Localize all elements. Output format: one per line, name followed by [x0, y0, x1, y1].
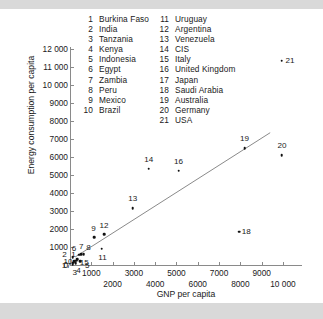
data-point-label-21: 21	[285, 57, 294, 65]
legend-item-a-1: 1Burkina Faso	[78, 14, 149, 24]
data-point-label-9: 9	[91, 225, 96, 233]
y-tick-4000	[71, 193, 74, 194]
legend-item-country: Uruguay	[175, 14, 207, 24]
data-point-20	[281, 154, 284, 157]
y-tick-6000	[71, 157, 74, 158]
x-tick-7000	[219, 262, 220, 265]
x-tick-9000	[262, 262, 263, 265]
y-tick-7000	[71, 139, 74, 140]
y-tick-8000	[71, 121, 74, 122]
x-tick-3000	[134, 262, 135, 265]
x-tick-4000	[155, 262, 156, 265]
legend-item-country: India	[99, 24, 118, 34]
x-tick-10000	[283, 262, 284, 265]
x-tick-2000	[113, 262, 114, 265]
legend-item-country: Argentina	[175, 24, 211, 34]
x-tick-label-7000: 7000	[210, 269, 228, 277]
legend-item-b-12: 12Argentina	[154, 24, 235, 34]
x-tick-1000	[91, 262, 92, 265]
data-point-16	[177, 169, 180, 172]
legend-item-number: 2	[78, 24, 93, 34]
y-tick-label-0: 0	[8, 261, 68, 269]
legend-item-country: Tanzania	[99, 34, 133, 44]
legend-item-number: 3	[78, 34, 93, 44]
legend-item-country: Venezuela	[175, 34, 215, 44]
y-tick-label-6000: 6000	[8, 153, 68, 161]
x-tick-label-3000: 3000	[125, 269, 143, 277]
y-axis-tick-labels: 010002000300040005000600070008000900010 …	[6, 0, 68, 319]
x-axis-line	[70, 265, 302, 266]
data-point-label-13: 13	[128, 195, 137, 203]
data-point-label-7: 7	[79, 243, 84, 251]
y-tick-label-12000: 12 000	[8, 45, 68, 53]
x-tick-label-8000: 8000	[231, 280, 249, 288]
y-axis-title: Energy consumption per capita	[26, 40, 36, 190]
y-tick-label-5000: 5000	[8, 171, 68, 179]
y-tick-label-11000: 11 000	[8, 63, 68, 71]
legend-item-number: 11	[154, 14, 169, 24]
y-tick-3000	[71, 211, 74, 212]
scatter-plot-figure: 1Burkina Faso2India3Tanzania4Kenya5Indon…	[0, 0, 323, 319]
y-tick-label-3000: 3000	[8, 207, 68, 215]
y-tick-5000	[71, 175, 74, 176]
legend-item-b-13: 13Venezuela	[154, 34, 235, 44]
y-tick-9000	[71, 103, 74, 104]
legend-item-b-11: 11Uruguay	[154, 14, 235, 24]
x-tick-label-6000: 6000	[189, 280, 207, 288]
y-tick-label-2000: 2000	[8, 225, 68, 233]
data-point-label-15: 15	[80, 258, 89, 266]
x-tick-6000	[198, 262, 199, 265]
data-point-label-20: 20	[277, 142, 286, 150]
data-point-18	[238, 230, 241, 233]
x-tick-label-9000: 9000	[252, 269, 270, 277]
legend-item-number: 13	[154, 34, 169, 44]
x-tick-label-4000: 4000	[146, 280, 164, 288]
x-tick-8000	[240, 262, 241, 265]
data-point-12	[103, 233, 106, 236]
x-tick-label-2000: 2000	[103, 280, 121, 288]
x-axis-title: GNP per capita	[70, 289, 302, 299]
legend-item-number: 12	[154, 24, 169, 34]
data-point-19	[243, 147, 246, 150]
y-tick-12000	[71, 49, 74, 50]
data-point-14	[147, 167, 150, 170]
legend-item-country: Burkina Faso	[99, 14, 149, 24]
data-point-label-11: 11	[98, 254, 106, 262]
legend-item-a-3: 3Tanzania	[78, 34, 149, 44]
data-point-21	[281, 59, 284, 62]
y-tick-label-9000: 9000	[8, 99, 68, 107]
x-tick-5000	[176, 262, 177, 265]
data-point-17	[73, 260, 76, 263]
legend-item-number: 1	[78, 14, 93, 24]
y-tick-label-1000: 1000	[8, 243, 68, 251]
data-point-11	[100, 248, 103, 251]
x-tick-label-10000: 10 000	[270, 280, 295, 288]
data-point-label-17: 17	[62, 262, 71, 270]
legend-item-a-2: 2India	[78, 24, 149, 34]
y-tick-label-7000: 7000	[8, 135, 68, 143]
data-point-label-6: 6	[72, 245, 77, 253]
data-point-8	[82, 253, 85, 256]
data-point-13	[132, 207, 135, 210]
y-tick-11000	[71, 67, 74, 68]
x-tick-label-5000: 5000	[167, 269, 185, 277]
y-tick-10000	[71, 85, 74, 86]
y-tick-2000	[71, 229, 74, 230]
y-tick-label-10000: 10 000	[8, 81, 68, 89]
x-tick-label-1000: 1000	[82, 269, 100, 277]
y-tick-label-4000: 4000	[8, 189, 68, 197]
y-tick-label-8000: 8000	[8, 117, 68, 125]
data-point-label-19: 19	[240, 135, 249, 143]
data-point-label-14: 14	[144, 156, 153, 164]
data-point-label-16: 16	[174, 157, 183, 165]
data-point-9	[93, 236, 96, 239]
data-point-label-18: 18	[242, 228, 251, 236]
data-point-label-4: 4	[76, 267, 81, 275]
data-point-label-8: 8	[86, 244, 91, 252]
data-point-label-12: 12	[100, 222, 109, 230]
